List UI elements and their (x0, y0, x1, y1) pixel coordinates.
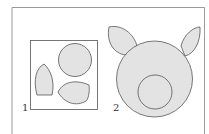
right-ear (181, 27, 200, 56)
pig-snout (138, 75, 172, 109)
head-piece (59, 44, 92, 77)
ear-piece-2 (58, 82, 89, 104)
label-2: 2 (113, 102, 119, 113)
panel-2: 2 (108, 26, 200, 117)
ear-piece-1 (35, 64, 53, 95)
label-1: 1 (22, 102, 28, 113)
panel-1: 1 (22, 41, 98, 114)
diagram: 1 2 (0, 0, 209, 134)
